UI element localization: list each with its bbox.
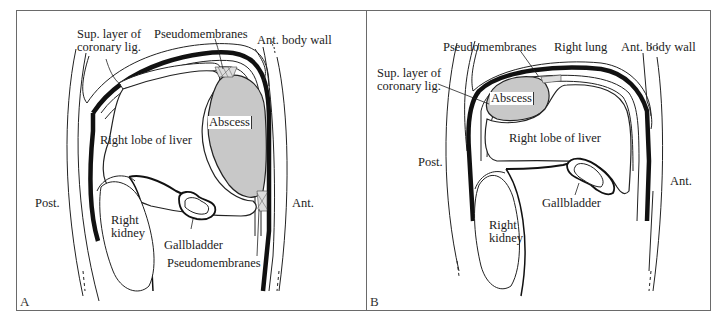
label-pseudomembranes-top: Pseudomembranes	[443, 41, 537, 54]
label-sup-layer-of-coronary-lig: Sup. layer of coronary lig.	[377, 67, 441, 93]
label-right-lung: Right lung	[554, 41, 607, 54]
label-ant: Ant.	[670, 175, 692, 188]
label-pseudomembranes-bottom: Pseudomembranes	[167, 257, 261, 270]
label-right-lobe-of-liver: Right lobe of liver	[100, 134, 192, 147]
label-abscess: Abscess	[490, 92, 534, 105]
panel-b: Pseudomembranes Right lung Ant. body wal…	[366, 10, 711, 311]
label-ant: Ant.	[292, 197, 314, 210]
label-ant-body-wall: Ant. body wall	[621, 41, 696, 54]
label-abscess: Abscess	[208, 116, 252, 129]
label-pseudomembranes-top: Pseudomembranes	[154, 28, 248, 41]
panel-letter-b: B	[370, 294, 379, 310]
label-right-kidney: Right kidney	[489, 219, 523, 245]
label-ant-body-wall: Ant. body wall	[257, 34, 332, 47]
label-post: Post.	[418, 156, 443, 169]
label-gallbladder: Gallbladder	[542, 197, 601, 210]
label-right-lobe-of-liver: Right lobe of liver	[509, 132, 601, 145]
figure: Sup. layer of coronary lig. Pseudomembra…	[0, 0, 720, 317]
label-right-kidney: Right kidney	[111, 214, 145, 240]
panel-letter-a: A	[20, 294, 29, 310]
label-post: Post.	[35, 197, 60, 210]
label-sup-layer-of-coronary-lig: Sup. layer of coronary lig.	[77, 28, 141, 54]
panel-a: Sup. layer of coronary lig. Pseudomembra…	[16, 10, 367, 311]
label-gallbladder: Gallbladder	[164, 239, 223, 252]
